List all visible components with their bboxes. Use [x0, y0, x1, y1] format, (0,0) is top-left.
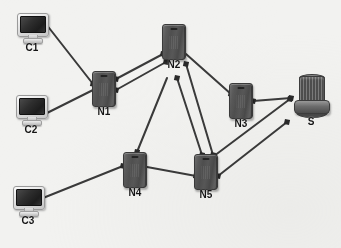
node-label-c1: C1	[26, 42, 39, 53]
node-label-c2: C2	[25, 124, 38, 135]
link-endpoint-marker	[284, 119, 290, 125]
node-label-n1: N1	[98, 106, 111, 117]
link-line	[147, 167, 196, 176]
node-n1[interactable]: N1	[92, 71, 116, 107]
computer-monitor-icon	[16, 13, 48, 43]
server-collar	[294, 100, 330, 114]
router-box-icon	[123, 152, 147, 188]
monitor-screen	[20, 16, 46, 33]
link-N2-N5[interactable]	[174, 75, 205, 158]
node-c2[interactable]: C2	[15, 95, 47, 125]
link-N4-N5[interactable]	[147, 167, 199, 179]
computer-monitor-icon	[15, 95, 47, 125]
node-label-n3: N3	[235, 118, 248, 129]
router-box-icon	[92, 71, 116, 107]
link-line	[45, 90, 93, 114]
node-s[interactable]: S	[292, 76, 330, 120]
node-n2[interactable]: N2	[162, 24, 186, 60]
link-line	[253, 98, 291, 101]
link-C1-N1[interactable]	[46, 24, 96, 87]
link-N2-N4[interactable]	[134, 78, 167, 155]
link-C3-N4[interactable]	[43, 163, 126, 198]
computer-monitor-icon	[12, 186, 44, 216]
link-endpoint-marker	[183, 61, 189, 67]
node-n4[interactable]: N4	[123, 152, 147, 188]
node-c1[interactable]: C1	[16, 13, 48, 43]
monitor-screen	[19, 98, 45, 115]
node-label-n4: N4	[129, 187, 142, 198]
monitor-screen	[16, 189, 42, 206]
node-label-c3: C3	[22, 215, 35, 226]
link-line	[137, 78, 167, 152]
link-line	[177, 78, 202, 155]
link-endpoint-marker	[174, 75, 180, 81]
node-label-n5: N5	[200, 189, 213, 200]
link-line	[46, 24, 93, 84]
link-line	[43, 166, 123, 198]
node-n3[interactable]: N3	[229, 83, 253, 119]
link-line	[186, 64, 213, 155]
router-box-icon	[229, 83, 253, 119]
server-stack-icon	[292, 76, 330, 120]
node-n5[interactable]: N5	[194, 154, 218, 190]
node-label-n2: N2	[168, 59, 181, 70]
node-c3[interactable]: C3	[12, 186, 44, 216]
network-diagram-canvas: C1C2C3N1N2N3N4N5S	[0, 0, 341, 248]
link-line	[218, 122, 287, 176]
link-C2-N1[interactable]	[42, 90, 93, 117]
router-box-icon	[194, 154, 218, 190]
node-label-s: S	[308, 116, 315, 127]
router-box-icon	[162, 24, 186, 60]
